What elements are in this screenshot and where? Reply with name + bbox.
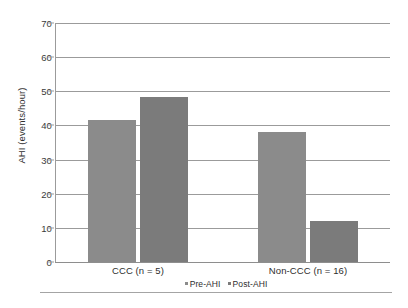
gridline-0 <box>55 262 390 263</box>
legend-item-post-ahi[interactable]: Post-AHI <box>228 279 268 289</box>
y-tick-mark-40 <box>48 125 54 126</box>
gridline-70 <box>55 23 390 24</box>
y-tick-label-60: 60 <box>6 52 52 63</box>
legend-swatch-icon-1 <box>185 282 188 285</box>
legend-swatch-icon-2 <box>228 282 231 285</box>
y-tick-mark-70 <box>48 23 54 24</box>
legend-label-2: Post-AHI <box>233 279 268 289</box>
y-tick-label-0: 0 <box>6 257 52 268</box>
y-tick-label-10: 10 <box>6 222 52 233</box>
legend-item-pre-ahi[interactable]: Pre-AHI <box>185 279 221 289</box>
chart-legend: Pre-AHIPost-AHI <box>0 279 408 289</box>
y-tick-mark-10 <box>48 227 54 228</box>
y-tick-mark-60 <box>48 57 54 58</box>
y-tick-mark-30 <box>48 159 54 160</box>
y-tick-mark-20 <box>48 193 54 194</box>
y-tick-label-40: 40 <box>6 120 52 131</box>
legend-label-1: Pre-AHI <box>190 279 221 289</box>
bottom-frame-rule <box>40 292 392 293</box>
y-tick-label-20: 20 <box>6 188 52 199</box>
bar-post-ahi-group-1 <box>140 97 188 262</box>
x-tick-label-group-2: Non-CCC (n = 16) <box>269 265 347 276</box>
bar-chart: 010203040506070 AHI (events/hour) CCC (n… <box>0 0 408 308</box>
y-tick-mark-50 <box>48 91 54 92</box>
x-tick-label-group-1: CCC (n = 5) <box>112 265 164 276</box>
bar-pre-ahi-group-1 <box>88 120 136 262</box>
gridline-60 <box>55 57 390 58</box>
y-axis-title: AHI (events/hour) <box>16 61 27 191</box>
y-tick-mark-0 <box>48 262 54 263</box>
gridline-50 <box>55 91 390 92</box>
plot-area <box>55 23 390 262</box>
y-tick-label-30: 30 <box>6 154 52 165</box>
bar-post-ahi-group-2 <box>310 221 358 262</box>
bar-pre-ahi-group-2 <box>258 132 306 262</box>
y-tick-label-70: 70 <box>6 18 52 29</box>
y-tick-label-50: 50 <box>6 86 52 97</box>
